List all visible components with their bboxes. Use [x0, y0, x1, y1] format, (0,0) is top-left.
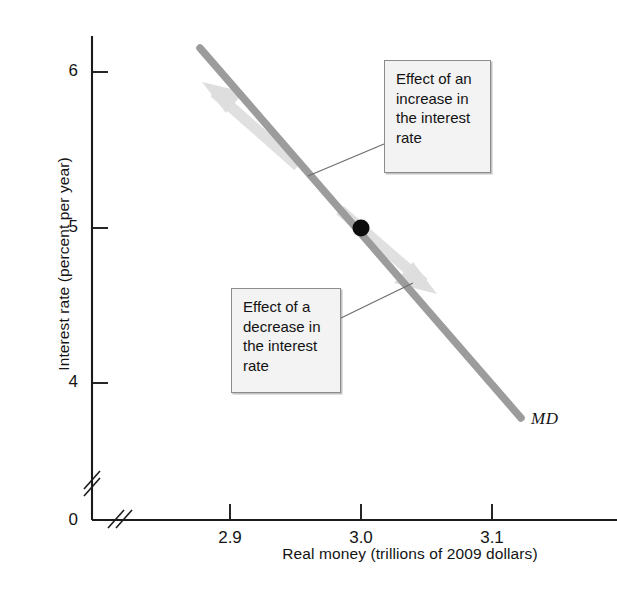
x-tick-label-2-9: 2.9 [200, 528, 260, 548]
md-curve-label: MD [531, 409, 559, 429]
callout-decrease-line-3: the interest [243, 336, 331, 356]
increase-leader-line [308, 144, 384, 176]
origin-label: 0 [52, 510, 78, 530]
callout-increase-line-3: the interest [396, 108, 481, 128]
callout-increase-line-2: increase in [396, 89, 481, 109]
increase-arrow-icon [202, 82, 298, 166]
callout-effect-of-decrease: Effect of a decrease in the interest rat… [231, 288, 341, 393]
callout-effect-of-increase: Effect of an increase in the interest ra… [384, 60, 491, 173]
equilibrium-point [353, 220, 370, 237]
x-axis-label: Real money (trillions of 2009 dollars) [245, 545, 575, 563]
callout-increase-line-4: rate [396, 128, 481, 148]
callout-decrease-line-1: Effect of a [243, 297, 331, 317]
callout-increase-line-1: Effect of an [396, 69, 481, 89]
money-demand-chart: Interest rate (percent per year) Real mo… [0, 0, 617, 590]
y-axis-label: Interest rate (percent per year) [55, 114, 73, 414]
y-tick-label-4: 4 [52, 372, 78, 392]
callout-decrease-line-4: rate [243, 356, 331, 376]
y-tick-label-5: 5 [52, 217, 78, 237]
decrease-leader-line [341, 283, 413, 318]
x-tick-label-3-1: 3.1 [462, 528, 522, 548]
callout-decrease-line-2: decrease in [243, 317, 331, 337]
x-tick-label-3-0: 3.0 [331, 528, 391, 548]
y-tick-label-6: 6 [52, 61, 78, 81]
